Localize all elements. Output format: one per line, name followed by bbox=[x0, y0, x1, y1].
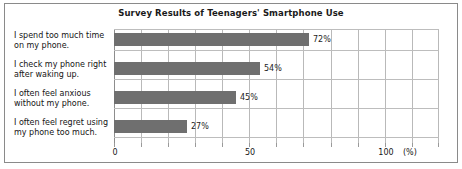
gridline-h-bottom bbox=[114, 137, 439, 138]
gridline-v-120 bbox=[438, 29, 439, 143]
category-label-1-line2: after waking up. bbox=[14, 70, 112, 80]
xtick-80 bbox=[331, 143, 332, 147]
xtick-90 bbox=[358, 143, 359, 147]
bar-value-2: 45% bbox=[240, 91, 258, 104]
xtick-label-50: 50 bbox=[245, 148, 255, 157]
bar-0 bbox=[114, 33, 309, 46]
xtick-110 bbox=[412, 143, 413, 147]
bar-1 bbox=[114, 62, 260, 75]
gridline-v-60 bbox=[276, 29, 277, 143]
gridline-h-3 bbox=[114, 108, 439, 109]
chart-figure: Survey Results of Teenagers' Smartphone … bbox=[0, 0, 462, 169]
bar-2 bbox=[114, 91, 236, 104]
gridline-v-50 bbox=[249, 29, 250, 143]
category-label-2-line1: I often feel anxious bbox=[14, 89, 112, 99]
category-label-2: I often feel anxious without my phone. bbox=[14, 89, 112, 108]
plot-area: 72% 54% 45% 27% bbox=[114, 29, 439, 143]
category-label-3-line1: I often feel regret using bbox=[14, 118, 112, 128]
xtick-120 bbox=[438, 143, 439, 147]
category-label-3: I often feel regret using my phone too m… bbox=[14, 118, 112, 137]
category-label-0-line2: on my phone. bbox=[14, 41, 112, 51]
bar-3 bbox=[114, 120, 187, 133]
gridline-v-110 bbox=[412, 29, 413, 143]
xtick-10 bbox=[141, 143, 142, 147]
gridline-v-80 bbox=[331, 29, 332, 143]
category-label-1-line1: I check my phone right bbox=[14, 60, 112, 70]
xaxis-unit-label: (%) bbox=[403, 148, 417, 157]
gridline-v-100 bbox=[385, 29, 386, 143]
xtick-label-100: 100 bbox=[378, 148, 393, 157]
xtick-label-0: 0 bbox=[112, 148, 117, 157]
xtick-50 bbox=[249, 143, 250, 147]
gridline-v-90 bbox=[358, 29, 359, 143]
xtick-0 bbox=[114, 143, 115, 147]
gridline-h-top bbox=[114, 29, 439, 30]
xtick-100 bbox=[385, 143, 386, 147]
category-label-3-line2: my phone too much. bbox=[14, 128, 112, 138]
xtick-30 bbox=[195, 143, 196, 147]
bar-value-3: 27% bbox=[191, 120, 209, 133]
bar-value-0: 72% bbox=[313, 33, 331, 46]
category-label-0-line1: I spend too much time bbox=[14, 31, 112, 41]
xtick-40 bbox=[222, 143, 223, 147]
category-label-2-line2: without my phone. bbox=[14, 99, 112, 109]
chart-title: Survey Results of Teenagers' Smartphone … bbox=[0, 8, 462, 18]
gridline-v-40 bbox=[222, 29, 223, 143]
xtick-20 bbox=[168, 143, 169, 147]
category-label-1: I check my phone right after waking up. bbox=[14, 60, 112, 79]
bar-value-1: 54% bbox=[264, 62, 282, 75]
gridline-v-70 bbox=[303, 29, 304, 143]
category-label-0: I spend too much time on my phone. bbox=[14, 31, 112, 50]
xtick-60 bbox=[276, 143, 277, 147]
gridline-h-1 bbox=[114, 50, 439, 51]
xtick-70 bbox=[303, 143, 304, 147]
gridline-h-2 bbox=[114, 79, 439, 80]
